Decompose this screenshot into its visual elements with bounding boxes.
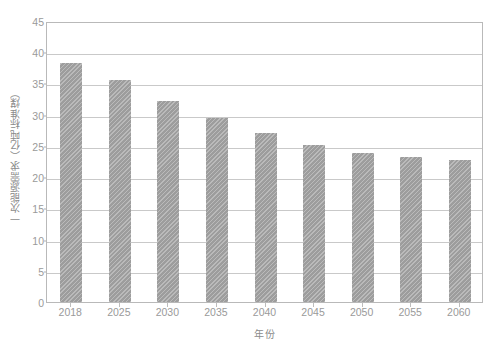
bar — [400, 157, 422, 302]
x-tick-mark — [70, 303, 71, 307]
x-tick-label: 2040 — [253, 306, 276, 318]
x-axis-title: 年份 — [46, 326, 483, 341]
bar — [157, 101, 179, 302]
x-tick-label: 2045 — [301, 306, 324, 318]
bar — [449, 160, 471, 302]
x-tick-label: 2025 — [107, 306, 130, 318]
y-tick-label: 30 — [18, 110, 44, 121]
y-tick-label: 15 — [18, 204, 44, 215]
x-tick-mark — [313, 303, 314, 307]
x-tick-mark — [216, 303, 217, 307]
bar — [303, 145, 325, 302]
x-tick-mark — [119, 303, 120, 307]
bar — [352, 153, 374, 302]
y-tick-label: 10 — [18, 235, 44, 246]
y-tick-label: 40 — [18, 48, 44, 59]
x-axis-ticks: 201820252030203520402045205020552060 — [46, 306, 483, 324]
y-tick-label: 0 — [18, 298, 44, 309]
x-tick-label: 2030 — [156, 306, 179, 318]
x-tick-mark — [167, 303, 168, 307]
y-axis-ticks: 051015202530354045 — [4, 0, 44, 354]
y-tick-label: 5 — [18, 267, 44, 278]
x-tick-label: 2060 — [447, 306, 470, 318]
x-tick-mark — [362, 303, 363, 307]
bar — [60, 63, 82, 302]
x-tick-label: 2050 — [350, 306, 373, 318]
y-tick-label: 25 — [18, 142, 44, 153]
bar-chart: 一次能源需求（亿吨标准煤） 051015202530354045 2018202… — [0, 0, 500, 354]
bars-layer — [47, 23, 482, 302]
bar — [109, 80, 131, 302]
x-tick-label: 2035 — [204, 306, 227, 318]
x-tick-mark — [410, 303, 411, 307]
x-tick-mark — [265, 303, 266, 307]
x-tick-mark — [459, 303, 460, 307]
plot-area — [46, 22, 483, 303]
bar — [255, 133, 277, 302]
bar — [206, 118, 228, 302]
y-tick-label: 35 — [18, 79, 44, 90]
y-tick-label: 20 — [18, 173, 44, 184]
x-tick-label: 2055 — [398, 306, 421, 318]
y-tick-label: 45 — [18, 17, 44, 28]
x-tick-label: 2018 — [59, 306, 82, 318]
